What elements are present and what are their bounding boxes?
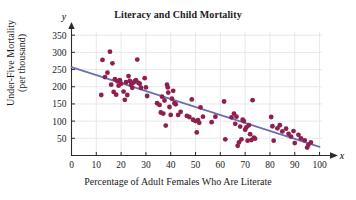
- data-point: [108, 49, 113, 54]
- data-point: [157, 103, 162, 108]
- data-point: [171, 88, 176, 93]
- y-tick-label: 100: [52, 117, 67, 127]
- y-tick-label: 50: [57, 134, 67, 144]
- x-tick-label: 90: [290, 160, 300, 170]
- x-axis-arrowhead: [330, 152, 338, 158]
- data-point: [253, 136, 258, 141]
- data-point: [161, 111, 166, 116]
- data-point: [284, 126, 289, 131]
- chart-figure: Literacy and Child Mortality Under-Five …: [0, 0, 356, 200]
- data-point: [271, 138, 276, 143]
- y-axis-arrowhead: [68, 22, 74, 29]
- data-point: [173, 102, 178, 107]
- data-point: [110, 61, 115, 66]
- data-point: [292, 141, 297, 146]
- data-point: [109, 82, 114, 87]
- data-point: [125, 93, 130, 98]
- data-point: [302, 138, 307, 143]
- data-point: [239, 137, 244, 142]
- data-point: [135, 57, 140, 62]
- data-point: [99, 93, 104, 98]
- data-point: [162, 98, 167, 103]
- x-tick-label: 10: [92, 160, 102, 170]
- x-tick-label: 30: [141, 160, 151, 170]
- y-tick-label: 250: [52, 65, 67, 75]
- data-point: [248, 132, 253, 137]
- data-point: [122, 97, 127, 102]
- data-point: [142, 76, 147, 81]
- x-axis-ticks: 0102030405060708090100: [69, 152, 327, 170]
- data-point: [194, 130, 199, 135]
- data-point: [130, 85, 135, 90]
- data-point: [269, 115, 274, 120]
- x-tick-label: 40: [166, 160, 176, 170]
- data-point: [277, 123, 282, 128]
- data-point: [114, 92, 119, 97]
- y-tick-label: 150: [52, 99, 67, 109]
- data-point: [198, 105, 203, 110]
- data-point: [189, 97, 194, 102]
- data-point: [126, 74, 131, 79]
- data-point: [197, 120, 202, 125]
- data-point: [103, 75, 108, 80]
- data-point: [178, 109, 183, 114]
- data-point: [201, 114, 206, 119]
- data-point: [168, 113, 173, 118]
- data-point: [209, 120, 214, 125]
- data-point: [163, 123, 168, 128]
- scatter-plot: 0102030405060708090100 50100150200250300…: [0, 0, 356, 200]
- data-point: [100, 58, 105, 63]
- data-point: [289, 134, 294, 139]
- y-tick-label: 350: [52, 31, 67, 41]
- data-point: [291, 129, 296, 134]
- data-point: [170, 96, 175, 101]
- x-tick-label: 60: [216, 160, 226, 170]
- data-point: [222, 99, 227, 104]
- x-tick-label: 80: [265, 160, 275, 170]
- data-point: [119, 81, 124, 86]
- data-point: [139, 85, 144, 90]
- x-tick-label: 20: [116, 160, 126, 170]
- data-point: [250, 98, 255, 103]
- data-point: [144, 85, 149, 90]
- data-point: [213, 114, 218, 119]
- y-axis-symbol: y: [61, 11, 67, 22]
- data-point: [165, 85, 170, 90]
- data-point: [234, 114, 239, 119]
- x-tick-label: 100: [312, 160, 327, 170]
- data-point: [145, 94, 150, 99]
- data-point: [121, 89, 126, 94]
- data-point: [233, 121, 238, 126]
- data-point: [246, 123, 251, 128]
- x-axis-symbol: x: [339, 150, 345, 161]
- data-point: [270, 124, 275, 129]
- data-point: [167, 105, 172, 110]
- data-point: [308, 140, 313, 145]
- data-point: [166, 90, 171, 95]
- x-tick-label: 0: [69, 160, 74, 170]
- x-tick-label: 50: [191, 160, 201, 170]
- data-point: [238, 124, 243, 129]
- y-tick-label: 200: [52, 82, 67, 92]
- y-tick-label: 300: [52, 48, 67, 58]
- x-tick-label: 70: [240, 160, 250, 170]
- data-point: [105, 70, 110, 75]
- data-point: [242, 119, 247, 124]
- data-point: [137, 81, 142, 86]
- data-point: [223, 137, 228, 142]
